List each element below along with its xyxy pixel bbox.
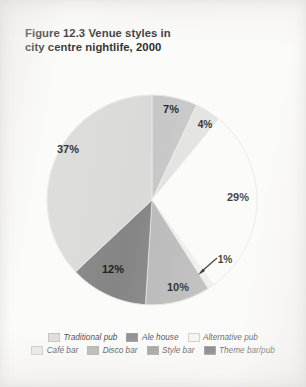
legend-item-ale-house: Ale house bbox=[126, 333, 178, 342]
pie-slice-label-disco-bar: 10% bbox=[167, 281, 189, 293]
chart-legend: Traditional pubAle houseAlternative pub … bbox=[0, 332, 306, 358]
legend-swatch-theme-bar-pub bbox=[204, 346, 216, 355]
legend-label: Disco bar bbox=[103, 346, 138, 355]
legend-swatch-cafe-bar bbox=[31, 346, 43, 355]
legend-item-theme-bar-pub: Theme bar/pub bbox=[204, 346, 275, 355]
legend-label: Traditional pub bbox=[64, 333, 118, 342]
legend-item-caf-bar: Café bar bbox=[31, 346, 78, 355]
legend-row-1: Traditional pubAle houseAlternative pub bbox=[0, 332, 306, 343]
pie-slice-label-style-bar: 4% bbox=[198, 119, 213, 130]
legend-label: Theme bar/pub bbox=[219, 346, 275, 355]
legend-label: Ale house bbox=[142, 333, 179, 342]
legend-label: Alternative pub bbox=[203, 333, 258, 342]
figure-page: Figure 12.3 Venue styles in city centre … bbox=[0, 0, 306, 387]
pie-slice-label-ale-house: 12% bbox=[102, 263, 124, 275]
legend-item-alternative-pub: Alternative pub bbox=[188, 333, 258, 342]
legend-item-disco-bar: Disco bar bbox=[87, 346, 137, 355]
legend-label: Style bar bbox=[162, 346, 195, 355]
pie-slice-label-caf-bar: 1% bbox=[218, 254, 233, 265]
pie-slice-label-traditional-pub: 37% bbox=[57, 143, 79, 155]
pie-slice-label-theme-bar-pub: 7% bbox=[163, 103, 179, 115]
page-title: Figure 12.3 Venue styles in city centre … bbox=[25, 26, 260, 55]
legend-swatch-style-bar bbox=[147, 346, 159, 355]
title-line-1: Figure 12.3 Venue styles in bbox=[25, 26, 260, 40]
pie-slice-label-alternative-pub: 29% bbox=[227, 191, 249, 203]
legend-row-2: Café barDisco barStyle barTheme bar/pub bbox=[0, 345, 306, 356]
legend-label: Café bar bbox=[47, 346, 79, 355]
legend-item-style-bar: Style bar bbox=[147, 346, 195, 355]
legend-swatch-ale-house bbox=[126, 333, 138, 342]
legend-swatch-traditional-pub bbox=[48, 333, 60, 342]
legend-item-traditional-pub: Traditional pub bbox=[48, 333, 117, 342]
legend-swatch-disco-bar bbox=[87, 346, 99, 355]
legend-swatch-alternative-pub bbox=[188, 333, 200, 342]
title-line-2: city centre nightlife, 2000 bbox=[25, 40, 260, 54]
pie-slice-group bbox=[47, 95, 257, 305]
